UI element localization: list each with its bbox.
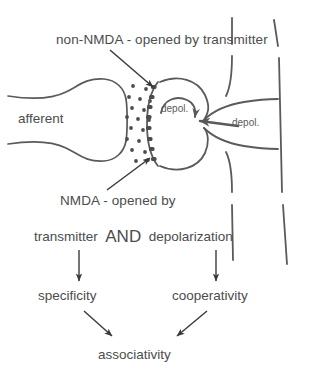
flow-arrow-cooperativity-associativity (177, 311, 207, 336)
and-left-term: transmitter (34, 229, 98, 244)
and-operator: AND (105, 227, 141, 246)
synapse-associativity-diagram: non-NMDA - opened by transmitter afferen… (0, 0, 326, 377)
and-right-term: depolarization (149, 229, 233, 244)
depol-inner-label: depol. (161, 104, 188, 114)
dendrite-shaft (226, 18, 287, 264)
diagram-canvas (0, 0, 326, 377)
nmda-leader-arrow (107, 158, 150, 190)
nmda-label: NMDA - opened by (60, 194, 176, 208)
afferent-label: afferent (18, 112, 64, 126)
cooperativity-label: cooperativity (172, 289, 248, 303)
flow-arrow-specificity-associativity (84, 311, 112, 336)
specificity-label: specificity (38, 289, 97, 303)
and-condition-row: transmitter AND depolarization (34, 228, 233, 245)
depol-outer-label: depol. (232, 118, 259, 128)
associativity-label: associativity (98, 348, 171, 362)
non-nmda-leader-arrow (110, 50, 153, 87)
non-nmda-label: non-NMDA - opened by transmitter (56, 33, 268, 47)
